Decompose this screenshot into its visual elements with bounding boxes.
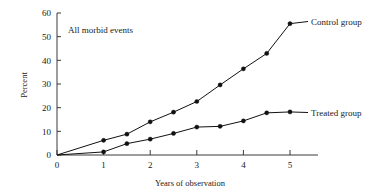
series-treated-group xyxy=(57,110,308,155)
data-point-treated-group-4.5 xyxy=(265,111,269,115)
data-point-control-group-1 xyxy=(102,138,106,142)
data-point-control-group-1.5 xyxy=(125,132,129,136)
x-tick-label-3: 3 xyxy=(195,160,200,170)
x-tick-label-0: 0 xyxy=(55,160,60,170)
x-axis-title: Years of observation xyxy=(155,178,226,188)
data-point-control-group-3 xyxy=(195,99,199,103)
data-point-treated-group-1 xyxy=(102,150,106,154)
data-point-treated-group-3 xyxy=(195,125,199,129)
data-point-treated-group-2.5 xyxy=(171,131,175,135)
y-tick-label-50: 50 xyxy=(42,32,52,42)
series-control-group xyxy=(57,22,308,156)
data-point-treated-group-4 xyxy=(241,119,245,123)
series-label-treated-group: Treated group xyxy=(311,108,362,118)
y-tick-label-0: 0 xyxy=(47,150,52,160)
y-tick-label-30: 30 xyxy=(42,79,52,89)
y-tick-label-60: 60 xyxy=(42,8,52,18)
x-axis-tick-labels: 012345 xyxy=(55,160,293,170)
series-label-control-group: Control group xyxy=(311,17,362,27)
x-tick-label-5: 5 xyxy=(288,160,293,170)
leader-line-control-group xyxy=(290,22,308,24)
morbid-events-line-chart: 0102030405060 012345 All morbid events Y… xyxy=(0,0,382,192)
data-point-control-group-2 xyxy=(148,120,152,124)
y-axis-ticks xyxy=(57,13,61,155)
y-axis-tick-labels: 0102030405060 xyxy=(42,8,52,160)
chart-annotation: All morbid events xyxy=(68,25,133,35)
y-tick-label-40: 40 xyxy=(42,56,52,66)
x-tick-label-2: 2 xyxy=(148,160,153,170)
leader-line-treated-group xyxy=(290,112,308,113)
x-tick-label-4: 4 xyxy=(241,160,246,170)
y-tick-label-20: 20 xyxy=(42,103,52,113)
data-point-control-group-4 xyxy=(241,67,245,71)
data-point-treated-group-1.5 xyxy=(125,142,129,146)
data-series xyxy=(57,22,308,156)
data-point-control-group-2.5 xyxy=(171,110,175,114)
data-point-treated-group-2 xyxy=(148,137,152,141)
y-axis-title: Percent xyxy=(19,72,29,98)
data-point-control-group-4.5 xyxy=(265,51,269,55)
data-point-control-group-3.5 xyxy=(218,83,222,87)
y-tick-label-10: 10 xyxy=(42,127,52,137)
x-tick-label-1: 1 xyxy=(101,160,106,170)
chart-figure: 0102030405060 012345 All morbid events Y… xyxy=(0,0,382,192)
data-point-treated-group-3.5 xyxy=(218,124,222,128)
